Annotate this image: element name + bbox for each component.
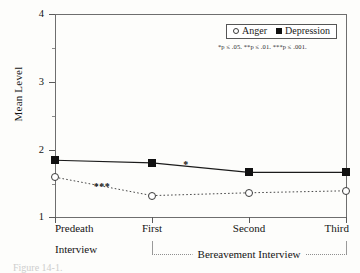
x-label-interview: Interview [55, 243, 97, 257]
x-label-first: First [142, 222, 162, 236]
point-depression-predeath [51, 156, 59, 164]
point-anger-second [245, 189, 253, 197]
legend-item-depression[interactable]: Depression [276, 26, 330, 36]
bracket-stem-right [346, 241, 347, 254]
y-tick-label-2: 2 [39, 145, 44, 156]
open-circle-icon [233, 28, 239, 34]
line-depression [55, 160, 346, 172]
point-anger-predeath [51, 173, 59, 181]
point-depression-second [245, 168, 253, 176]
x-label-predeath-interview: Predeath Interview [55, 222, 97, 257]
annotation-anger-predeath-first: *** [94, 182, 111, 192]
legend-item-anger[interactable]: Anger [233, 26, 267, 36]
filled-square-icon [276, 28, 282, 34]
annotation-depression-first-second: * [183, 160, 189, 170]
y-tick-label-1: 1 [39, 212, 44, 223]
point-anger-third [342, 187, 350, 195]
legend-label-anger: Anger [242, 26, 267, 36]
point-depression-first [148, 159, 156, 167]
y-tick-label-3: 3 [39, 77, 44, 88]
legend[interactable]: Anger Depression [226, 24, 337, 39]
y-tick-label-4: 4 [39, 9, 44, 20]
bracket-label: Bereavement Interview [193, 249, 306, 260]
x-label-predeath: Predeath [55, 222, 93, 234]
y-axis-label: Mean Level [12, 49, 24, 139]
point-depression-third [342, 168, 350, 176]
x-label-second: Second [233, 222, 265, 236]
legend-label-depression: Depression [285, 26, 330, 36]
figure-caption: Figure 14-1. [13, 262, 62, 273]
bracket-stem-left [152, 241, 153, 254]
x-label-third: Third [325, 222, 349, 236]
point-anger-first [148, 192, 156, 200]
significance-note: *p ≤ .05. **p ≤ .01. ***p ≤ .001. [218, 43, 307, 50]
